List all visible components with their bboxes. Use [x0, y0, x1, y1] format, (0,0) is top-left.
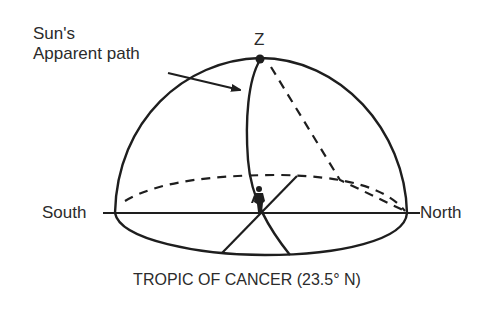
meridian-projection — [271, 67, 405, 211]
north-label: North — [420, 203, 462, 223]
sun-path-label-line1: Sun's — [33, 24, 140, 44]
horizon-ellipse-front — [115, 213, 407, 255]
zenith-label: Z — [254, 30, 264, 50]
zenith-point — [256, 55, 265, 64]
south-label: South — [42, 203, 86, 223]
sun-path-label-line2: Apparent path — [33, 44, 140, 64]
sun-apparent-path — [247, 60, 290, 255]
horizon-ellipse-back — [125, 175, 405, 211]
pointer-arrow — [168, 73, 240, 90]
diagram-caption: TROPIC OF CANCER (23.5° N) — [0, 270, 494, 290]
sun-path-label: Sun's Apparent path — [33, 24, 140, 64]
